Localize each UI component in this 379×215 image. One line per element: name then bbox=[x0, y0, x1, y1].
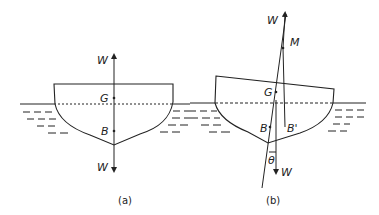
caption-a: (a) bbox=[118, 195, 132, 206]
label-w-top: W bbox=[97, 54, 109, 67]
panel-b: W M G B B' θ W (b) bbox=[190, 14, 366, 206]
caption-b: (b) bbox=[266, 195, 280, 206]
label-m: M bbox=[290, 36, 300, 49]
water-dashes-left bbox=[23, 112, 68, 133]
label-g: G bbox=[100, 92, 109, 105]
water-dashes-right bbox=[160, 111, 190, 132]
point-g bbox=[113, 97, 116, 100]
buoyancy-line bbox=[283, 48, 285, 127]
label-b: B bbox=[260, 122, 268, 135]
label-w-top: W bbox=[267, 14, 279, 27]
label-g: G bbox=[264, 86, 273, 99]
point-g bbox=[275, 91, 278, 94]
water-dashes-left bbox=[190, 111, 230, 132]
point-b bbox=[113, 130, 116, 133]
point-m bbox=[282, 47, 285, 50]
panel-a: W G B W (a) bbox=[20, 54, 190, 206]
label-theta: θ bbox=[268, 154, 275, 167]
label-w-bottom: W bbox=[281, 166, 293, 179]
label-w-bottom: W bbox=[97, 161, 109, 174]
ship-stability-diagram: W G B W (a) bbox=[0, 0, 379, 215]
label-b: B bbox=[101, 125, 109, 138]
label-b-prime: B' bbox=[287, 122, 298, 135]
point-b bbox=[269, 126, 272, 129]
hull-heeled bbox=[215, 76, 334, 143]
water-dashes-right bbox=[328, 110, 364, 131]
